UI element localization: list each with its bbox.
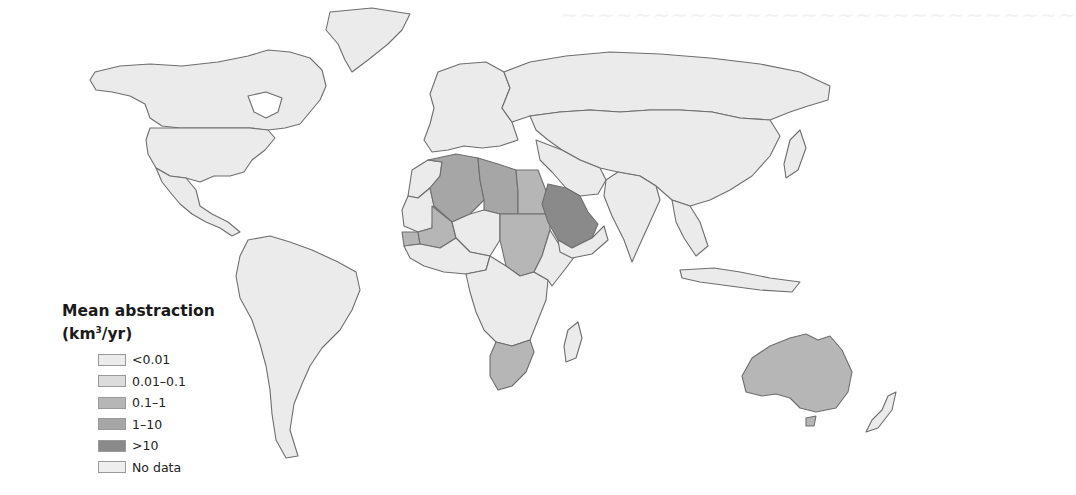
legend-swatch [98,375,126,387]
legend-label: 1–10 [132,417,162,432]
legend-item: 0.01–0.1 [98,371,215,393]
region-north-america-north [90,50,326,130]
region-south-america [236,236,360,458]
region-southeast-asia [672,200,708,256]
region-tasmania [806,416,816,426]
legend-swatch [98,397,126,409]
region-libya [478,158,518,214]
legend-swatch [98,461,126,473]
legend-label: 0.01–0.1 [132,374,186,389]
legend-item: 1–10 [98,414,215,436]
legend-title-line1: Mean abstraction [62,302,215,321]
legend-swatch [98,418,126,430]
legend-unit-suffix: /yr) [102,325,133,343]
legend-label: <0.01 [132,352,170,367]
legend-title-line2: (km3/yr) [62,321,215,344]
legend-item: 0.1–1 [98,392,215,414]
legend-swatch [98,354,126,366]
legend-label: >10 [132,438,158,453]
region-australia [742,334,852,412]
legend-title: Mean abstraction (km3/yr) [62,302,215,344]
region-greenland [326,8,410,72]
legend-item: <0.01 [98,349,215,371]
region-madagascar [564,322,582,362]
legend-label: No data [132,460,181,475]
region-indonesia [680,268,800,292]
legend-items: <0.01 0.01–0.1 0.1–1 1–10 >10 No data [98,349,215,478]
legend-label: 0.1–1 [132,395,166,410]
region-new-zealand [866,392,896,432]
region-india [604,172,660,262]
legend-item: >10 [98,435,215,457]
legend: Mean abstraction (km3/yr) <0.01 0.01–0.1… [62,302,215,478]
legend-unit-prefix: (km [62,325,96,343]
legend-swatch [98,440,126,452]
legend-item: No data [98,457,215,479]
region-japan [784,130,806,178]
region-south-africa [490,340,534,390]
